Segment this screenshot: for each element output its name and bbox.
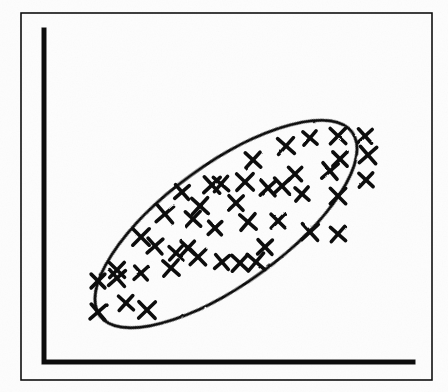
paper-grain-texture — [0, 0, 448, 392]
scatter-figure: onie n tingen: x 0 s re required quency … — [0, 0, 448, 392]
figure-canvas — [0, 0, 448, 392]
